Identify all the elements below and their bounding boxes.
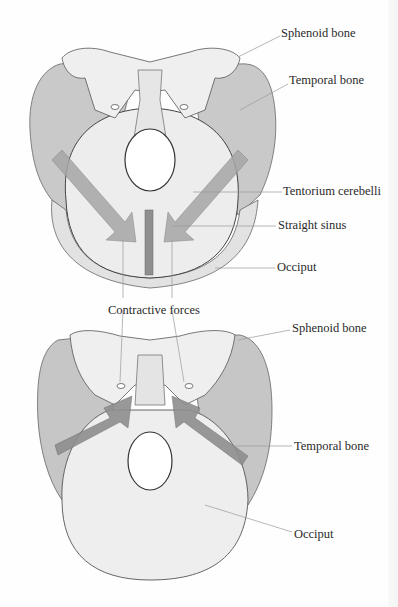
label-sphenoid-bone-bottom: Sphenoid bone bbox=[292, 322, 367, 335]
label-straight-sinus: Straight sinus bbox=[278, 219, 346, 232]
foramen-magnum bbox=[128, 432, 172, 490]
label-temporal-bone-bottom: Temporal bone bbox=[294, 440, 369, 453]
top-skull bbox=[30, 48, 276, 288]
straight-sinus bbox=[145, 210, 153, 275]
label-occiput-bottom: Occiput bbox=[294, 528, 334, 541]
label-sphenoid-bone-top: Sphenoid bone bbox=[281, 27, 356, 40]
clivus bbox=[135, 355, 165, 405]
anatomy-figure: Sphenoid bone Temporal bone Tentorium ce… bbox=[0, 0, 398, 607]
label-temporal-bone-top: Temporal bone bbox=[289, 74, 364, 87]
label-occiput-top: Occiput bbox=[277, 261, 317, 274]
bottom-skull bbox=[38, 331, 272, 580]
label-tentorium-cerebelli: Tentorium cerebelli bbox=[283, 185, 381, 198]
label-contractive-forces: Contractive forces bbox=[108, 304, 200, 317]
foramen-magnum bbox=[125, 129, 175, 191]
